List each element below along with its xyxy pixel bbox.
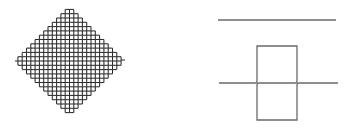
- line-box-figure: [218, 20, 338, 120]
- diamond-grid-figure: [15, 9, 125, 112]
- figure-canvas: [0, 0, 352, 129]
- middle-horizontal-line: [219, 81, 338, 85]
- figure-svg: [0, 0, 352, 129]
